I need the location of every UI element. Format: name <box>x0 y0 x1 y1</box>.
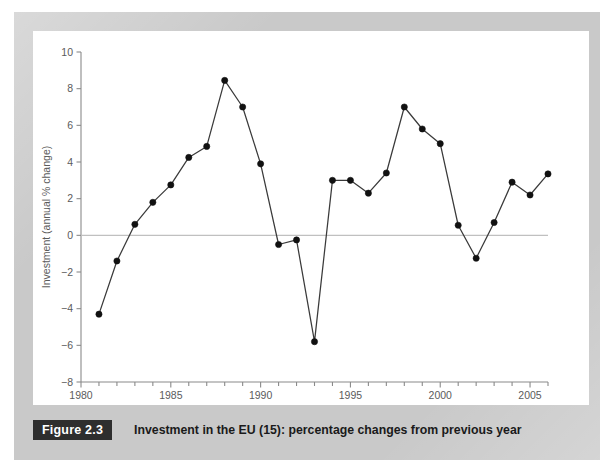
y-tick-label: −2 <box>61 266 73 278</box>
x-tick-label: 1990 <box>249 389 273 401</box>
y-tick-label: 0 <box>67 229 73 241</box>
line-chart: Investment (annual % change) −8−6−4−2024… <box>33 31 589 405</box>
y-axis-title: Investment (annual % change) <box>40 146 52 288</box>
x-tick-label: 1995 <box>339 389 363 401</box>
data-point-marker <box>96 311 102 317</box>
y-tick-label: 6 <box>67 119 73 131</box>
x-tick-label: 2000 <box>429 389 453 401</box>
data-point-marker <box>401 104 407 110</box>
x-axis-ticks: 198019851990199520002005 <box>69 382 548 401</box>
data-point-marker <box>365 190 371 196</box>
data-point-marker <box>132 221 138 227</box>
axis-lines <box>81 52 548 382</box>
y-tick-label: 4 <box>67 156 73 168</box>
data-point-marker <box>311 339 317 345</box>
figure-root: Investment (annual % change) −8−6−4−2024… <box>0 0 614 474</box>
data-point-marker <box>258 161 264 167</box>
data-point-marker <box>383 170 389 176</box>
data-point-marker <box>293 237 299 243</box>
data-point-marker <box>329 177 335 183</box>
x-tick-label: 2005 <box>518 389 542 401</box>
data-point-marker <box>240 104 246 110</box>
data-point-marker <box>509 179 515 185</box>
y-axis-title-text: Investment (annual % change) <box>40 146 52 288</box>
data-point-marker <box>455 222 461 228</box>
y-tick-label: 8 <box>67 82 73 94</box>
data-point-marker <box>473 255 479 261</box>
figure-number-badge: Figure 2.3 <box>33 420 112 441</box>
data-point-marker <box>419 126 425 132</box>
data-point-marker <box>527 192 533 198</box>
data-point-marker <box>186 154 192 160</box>
figure-caption-text: Investment in the EU (15): percentage ch… <box>134 423 521 437</box>
data-point-markers <box>96 77 551 344</box>
data-point-marker <box>204 143 210 149</box>
data-point-marker <box>437 141 443 147</box>
y-tick-label: −4 <box>61 302 73 314</box>
plot-card: Investment (annual % change) −8−6−4−2024… <box>33 31 589 405</box>
data-point-marker <box>275 241 281 247</box>
y-tick-label: 2 <box>67 192 73 204</box>
y-tick-label: −6 <box>61 339 73 351</box>
y-tick-label: 10 <box>61 46 73 58</box>
data-point-marker <box>150 199 156 205</box>
data-series-line <box>99 80 548 341</box>
data-point-marker <box>222 77 228 83</box>
data-point-marker <box>168 182 174 188</box>
x-tick-label: 1985 <box>159 389 183 401</box>
y-axis-ticks: −8−6−4−20246810 <box>61 46 81 388</box>
data-point-marker <box>491 219 497 225</box>
data-point-marker <box>545 171 551 177</box>
figure-caption-row: Figure 2.3 Investment in the EU (15): pe… <box>33 418 589 442</box>
data-point-marker <box>114 258 120 264</box>
y-tick-label: −8 <box>61 376 73 388</box>
data-point-marker <box>347 177 353 183</box>
x-tick-label: 1980 <box>69 389 93 401</box>
